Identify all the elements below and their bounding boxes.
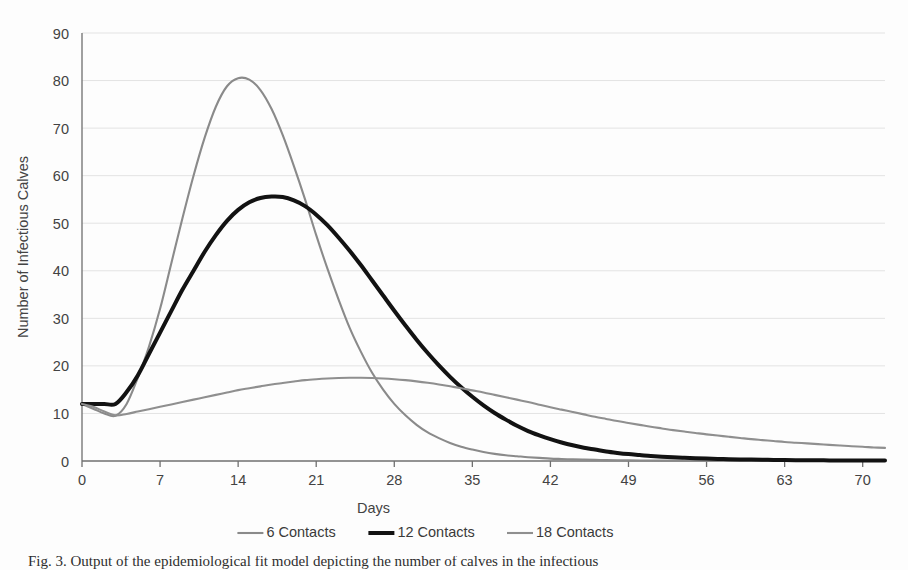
chart-canvas: 0102030405060708090 07142128354249566370…: [0, 0, 908, 548]
y-tick-label: 40: [53, 263, 69, 279]
x-tick-label: 0: [78, 472, 86, 488]
x-axis-tick-labels: 07142128354249566370: [78, 472, 871, 488]
x-tick-label: 42: [542, 472, 558, 488]
x-tick-label: 28: [386, 472, 402, 488]
y-axis-title: Number of Infectious Calves: [15, 156, 31, 338]
legend-label-2: 12 Contacts: [397, 524, 474, 540]
y-tick-label: 90: [53, 26, 69, 42]
x-axis-title: Days: [357, 500, 390, 516]
line-chart-figure: 0102030405060708090 07142128354249566370…: [0, 0, 908, 548]
legend-label-3: 18 Contacts: [536, 524, 613, 540]
y-tick-label: 20: [53, 358, 69, 374]
x-tick-label: 70: [855, 472, 871, 488]
x-tick-label: 14: [230, 472, 246, 488]
y-tick-label: 30: [53, 311, 69, 327]
y-tick-label: 70: [53, 121, 69, 137]
figure-page: 0102030405060708090 07142128354249566370…: [0, 0, 908, 570]
x-tick-label: 63: [777, 472, 793, 488]
x-tick-label: 7: [156, 472, 164, 488]
y-axis-tick-labels: 0102030405060708090: [53, 26, 69, 470]
x-tick-label: 21: [308, 472, 324, 488]
legend-label-1: 6 Contacts: [266, 524, 335, 540]
y-tick-label: 0: [61, 454, 69, 470]
series-line-2: [82, 197, 885, 461]
series-line-3: [82, 378, 885, 448]
x-tick-label: 56: [698, 472, 714, 488]
y-tick-label: 60: [53, 168, 69, 184]
y-tick-label: 80: [53, 73, 69, 89]
figure-caption-strip: Fig. 3. Output of the epidemiological fi…: [0, 556, 908, 570]
gridlines-group: [82, 33, 885, 413]
y-tick-label: 10: [53, 406, 69, 422]
data-series-group: [82, 78, 885, 461]
chart-legend: 6 Contacts12 Contacts18 Contacts: [237, 524, 613, 540]
figure-caption-text: Fig. 3. Output of the epidemiological fi…: [28, 556, 880, 570]
y-tick-label: 50: [53, 216, 69, 232]
x-tick-label: 35: [464, 472, 480, 488]
x-tick-label: 49: [620, 472, 636, 488]
